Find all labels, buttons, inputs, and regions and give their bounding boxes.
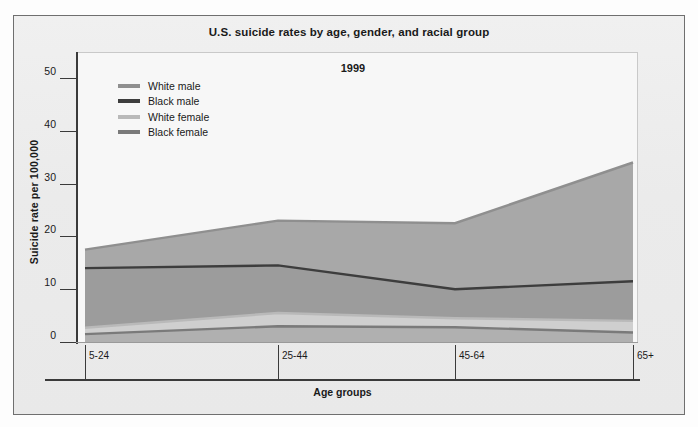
figure-root: U.S. suicide rates by age, gender, and r… <box>0 0 698 427</box>
y-tick-mark <box>60 131 76 132</box>
x-tick-mark <box>278 345 279 379</box>
x-axis-title: Age groups <box>45 386 640 398</box>
legend-item-label: Black male <box>148 95 199 107</box>
x-tick-label: 45-64 <box>459 350 485 361</box>
chart-legend: White maleBlack maleWhite femaleBlack fe… <box>118 78 209 140</box>
x-tick-mark <box>633 345 634 379</box>
x-axis-line <box>45 379 640 381</box>
x-tick-mark <box>85 345 86 379</box>
legend-swatch-icon <box>118 84 140 88</box>
zero-baseline <box>76 342 638 343</box>
y-tick-mark <box>60 342 76 343</box>
legend-swatch-icon <box>118 115 140 119</box>
x-tick-mark <box>455 345 456 379</box>
y-tick-mark <box>60 78 76 79</box>
y-axis-line <box>76 52 78 344</box>
y-tick-mark <box>60 184 76 185</box>
y-tick-mark <box>60 289 76 290</box>
x-tick-label: 5-24 <box>89 350 109 361</box>
legend-item-label: Black female <box>148 126 208 138</box>
legend-item[interactable]: Black male <box>118 94 209 110</box>
legend-item[interactable]: White female <box>118 109 209 125</box>
y-tick-label: 0 <box>26 329 56 341</box>
y-axis-title: Suicide rate per 100,000 <box>28 92 40 312</box>
y-tick-mark <box>60 236 76 237</box>
legend-item[interactable]: White male <box>118 78 209 94</box>
legend-swatch-icon <box>118 99 140 103</box>
legend-item-label: White female <box>148 111 209 123</box>
x-tick-label: 65+ <box>637 350 654 361</box>
x-tick-label: 25-44 <box>282 350 308 361</box>
legend-item-label: White male <box>148 80 201 92</box>
chart-title: U.S. suicide rates by age, gender, and r… <box>0 26 698 38</box>
legend-item[interactable]: Black female <box>118 125 209 141</box>
legend-swatch-icon <box>118 130 140 134</box>
y-tick-label: 50 <box>26 65 56 77</box>
